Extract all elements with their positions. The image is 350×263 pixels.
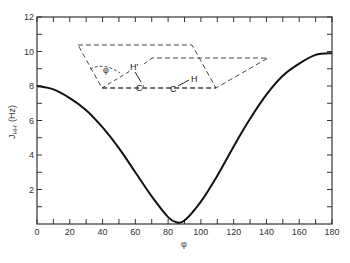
y-tick-label: 4 (29, 150, 34, 160)
karplus-chart: 02040608010012014016018024681012 H' C' C… (0, 0, 350, 263)
y-tick-label: 8 (29, 81, 34, 91)
y-axis-label-sub: HH' (12, 125, 18, 135)
label-phi-inset: φ (103, 65, 109, 75)
y-tick-label: 2 (29, 185, 34, 195)
bond-h-prime-c-prime (135, 72, 141, 82)
y-axis-label: JHH' (Hz) (7, 105, 18, 139)
label-c-prime: C' (136, 83, 144, 93)
x-tick-label: 60 (130, 227, 140, 237)
x-tick-label: 40 (98, 227, 108, 237)
x-tick-label: 100 (193, 227, 208, 237)
x-tick-label: 160 (292, 227, 307, 237)
x-tick-label: 80 (163, 227, 173, 237)
x-tick-label: 140 (259, 227, 274, 237)
bond-c-h (178, 80, 189, 86)
label-h-prime: H' (130, 62, 138, 72)
x-axis-label: φ (181, 239, 187, 249)
plot-frame (37, 17, 332, 224)
y-tick-label: 10 (24, 47, 34, 57)
y-tick-label: 6 (29, 116, 34, 126)
x-tick-label: 20 (65, 227, 75, 237)
y-axis-label-unit: (Hz) (7, 105, 17, 125)
plot-axes (37, 17, 332, 224)
label-c: C (170, 84, 177, 94)
x-tick-label: 180 (324, 227, 339, 237)
dihedral-angle-inset: H' C' C H φ (78, 45, 268, 94)
data-curve (37, 53, 332, 223)
x-tick-label: 0 (34, 227, 39, 237)
x-tick-label: 120 (226, 227, 241, 237)
label-h: H (191, 74, 198, 84)
axis-tick-labels: 02040608010012014016018024681012 (24, 12, 340, 237)
axis-ticks (37, 17, 332, 224)
y-tick-label: 12 (24, 12, 34, 22)
